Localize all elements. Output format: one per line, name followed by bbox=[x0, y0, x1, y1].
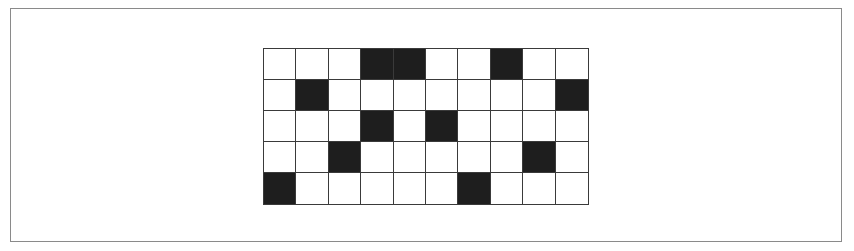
binary-grid bbox=[263, 48, 589, 205]
grid-cell-empty bbox=[556, 111, 588, 142]
grid-cell-empty bbox=[426, 173, 458, 204]
grid-cell-filled bbox=[523, 142, 555, 173]
grid-cell-empty bbox=[523, 173, 555, 204]
grid-cell-empty bbox=[394, 142, 426, 173]
grid-cell-empty bbox=[264, 80, 296, 111]
grid-cell-empty bbox=[296, 173, 328, 204]
grid-cell-empty bbox=[264, 142, 296, 173]
grid-cell-empty bbox=[426, 49, 458, 80]
grid-cell-empty bbox=[458, 111, 490, 142]
grid-cell-empty bbox=[491, 80, 523, 111]
grid-cell-empty bbox=[556, 49, 588, 80]
grid-cell-empty bbox=[523, 111, 555, 142]
grid-cell-empty bbox=[394, 80, 426, 111]
grid-cell-empty bbox=[394, 111, 426, 142]
grid-cell-filled bbox=[264, 173, 296, 204]
grid-cell-empty bbox=[296, 142, 328, 173]
grid-cell-empty bbox=[523, 80, 555, 111]
grid-cell-empty bbox=[361, 173, 393, 204]
grid-cell-empty bbox=[296, 49, 328, 80]
grid-cell-empty bbox=[458, 142, 490, 173]
grid-cell-filled bbox=[361, 111, 393, 142]
grid-cell-filled bbox=[491, 49, 523, 80]
grid-cell-empty bbox=[458, 49, 490, 80]
grid-cell-filled bbox=[296, 80, 328, 111]
grid-cell-empty bbox=[394, 173, 426, 204]
grid-cell-empty bbox=[296, 111, 328, 142]
grid-cell-empty bbox=[329, 49, 361, 80]
grid-cell-filled bbox=[361, 49, 393, 80]
grid-cell-empty bbox=[264, 49, 296, 80]
grid-cell-filled bbox=[458, 173, 490, 204]
grid-cell-filled bbox=[556, 80, 588, 111]
grid-cell-empty bbox=[491, 142, 523, 173]
grid-cell-empty bbox=[556, 173, 588, 204]
grid-cell-filled bbox=[426, 111, 458, 142]
grid-cell-empty bbox=[264, 111, 296, 142]
grid-cell-empty bbox=[361, 142, 393, 173]
grid-cell-empty bbox=[458, 80, 490, 111]
grid-cell-empty bbox=[329, 111, 361, 142]
grid-cell-empty bbox=[523, 49, 555, 80]
grid-cell-filled bbox=[394, 49, 426, 80]
grid-cell-filled bbox=[329, 142, 361, 173]
grid-cell-empty bbox=[491, 173, 523, 204]
grid-cell-empty bbox=[426, 80, 458, 111]
grid-cell-empty bbox=[556, 142, 588, 173]
grid-cell-empty bbox=[426, 142, 458, 173]
grid-cell-empty bbox=[329, 80, 361, 111]
grid-cell-empty bbox=[491, 111, 523, 142]
grid-cell-empty bbox=[361, 80, 393, 111]
grid-cell-empty bbox=[329, 173, 361, 204]
